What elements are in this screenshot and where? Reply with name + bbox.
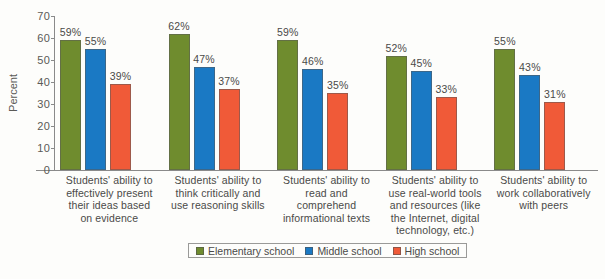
y-axis-tick-label: 40 bbox=[37, 76, 55, 88]
bar-value-label: 46% bbox=[302, 55, 324, 67]
bar-group-bars: 59%55%39% bbox=[55, 16, 164, 170]
bar-group: 55%43%31% bbox=[489, 16, 598, 170]
bar-slot: 59% bbox=[60, 16, 81, 170]
bar[interactable] bbox=[436, 97, 457, 170]
bar-value-label: 55% bbox=[494, 35, 516, 47]
bar-value-label: 45% bbox=[410, 57, 432, 69]
bar-group: 59%55%39% bbox=[55, 16, 164, 170]
bar-slot: 35% bbox=[327, 16, 348, 170]
bar-group-bars: 55%43%31% bbox=[489, 16, 598, 170]
x-axis-category-label: Students' ability toeffectively presentt… bbox=[55, 174, 164, 237]
bar-slot: 55% bbox=[494, 16, 515, 170]
bar[interactable] bbox=[277, 40, 298, 170]
bar[interactable] bbox=[60, 40, 81, 170]
bar[interactable] bbox=[194, 67, 215, 170]
bar-value-label: 33% bbox=[435, 83, 457, 95]
x-axis-category-label: Students' ability toread and comprehendi… bbox=[272, 174, 381, 237]
bar-value-label: 52% bbox=[385, 42, 407, 54]
y-axis-title: Percent bbox=[7, 74, 19, 112]
x-axis-category-label: Students' ability touse real-world tools… bbox=[381, 174, 490, 237]
legend-label: Elementary school bbox=[208, 245, 294, 257]
bar-slot: 46% bbox=[302, 16, 323, 170]
y-axis-tick-label: 50 bbox=[37, 54, 55, 66]
plot-area: Percent 010203040506070 59%55%39%62%47%3… bbox=[55, 16, 598, 170]
y-axis-tick-label: 60 bbox=[37, 32, 55, 44]
bar-value-label: 59% bbox=[277, 26, 299, 38]
bar-value-label: 62% bbox=[168, 20, 190, 32]
bar-value-label: 35% bbox=[327, 79, 349, 91]
chart-figure: Percent 010203040506070 59%55%39%62%47%3… bbox=[0, 0, 605, 279]
y-axis-tick-label: 0 bbox=[44, 164, 55, 176]
bar-value-label: 31% bbox=[544, 88, 566, 100]
bar-group: 59%46%35% bbox=[272, 16, 381, 170]
bar[interactable] bbox=[302, 69, 323, 170]
bar[interactable] bbox=[85, 49, 106, 170]
bar[interactable] bbox=[110, 84, 131, 170]
bar-value-label: 59% bbox=[60, 26, 82, 38]
legend-swatch-icon bbox=[393, 247, 401, 255]
bar-slot: 52% bbox=[386, 16, 407, 170]
bar-slot: 39% bbox=[110, 16, 131, 170]
legend-item[interactable]: High school bbox=[393, 245, 460, 257]
bar[interactable] bbox=[386, 56, 407, 170]
bar-slot: 55% bbox=[85, 16, 106, 170]
bar-value-label: 37% bbox=[218, 75, 240, 87]
y-axis-tick-label: 20 bbox=[37, 120, 55, 132]
legend-label: Middle school bbox=[317, 245, 381, 257]
bar-value-label: 39% bbox=[110, 70, 132, 82]
bar[interactable] bbox=[411, 71, 432, 170]
y-axis-tick-label: 70 bbox=[37, 10, 55, 22]
bar-slot: 62% bbox=[169, 16, 190, 170]
bar-groups: 59%55%39%62%47%37%59%46%35%52%45%33%55%4… bbox=[55, 16, 598, 170]
bar-slot: 47% bbox=[194, 16, 215, 170]
x-axis-labels: Students' ability toeffectively presentt… bbox=[55, 174, 598, 237]
legend-label: High school bbox=[405, 245, 460, 257]
bar-value-label: 55% bbox=[85, 35, 107, 47]
bar-slot: 45% bbox=[411, 16, 432, 170]
bar-group-bars: 59%46%35% bbox=[272, 16, 381, 170]
chart-legend: Elementary schoolMiddle schoolHigh schoo… bbox=[188, 243, 467, 258]
bar-slot: 33% bbox=[436, 16, 457, 170]
y-axis-tick-label: 10 bbox=[37, 142, 55, 154]
bar[interactable] bbox=[219, 89, 240, 170]
bar[interactable] bbox=[519, 75, 540, 170]
legend-swatch-icon bbox=[305, 247, 313, 255]
bar-value-label: 43% bbox=[519, 61, 541, 73]
x-axis-category-label: Students' ability towork collaboratively… bbox=[489, 174, 598, 237]
bar[interactable] bbox=[494, 49, 515, 170]
bar-slot: 59% bbox=[277, 16, 298, 170]
bar[interactable] bbox=[544, 102, 565, 170]
bar-value-label: 47% bbox=[193, 53, 215, 65]
bar-slot: 37% bbox=[219, 16, 240, 170]
x-axis-category-label: Students' ability tothink critically and… bbox=[164, 174, 273, 237]
x-axis-line bbox=[36, 170, 598, 171]
bar[interactable] bbox=[169, 34, 190, 170]
bar-slot: 31% bbox=[544, 16, 565, 170]
bar[interactable] bbox=[327, 93, 348, 170]
bar-group: 62%47%37% bbox=[164, 16, 273, 170]
legend-item[interactable]: Middle school bbox=[305, 245, 381, 257]
bar-slot: 43% bbox=[519, 16, 540, 170]
legend-item[interactable]: Elementary school bbox=[196, 245, 294, 257]
bar-group-bars: 62%47%37% bbox=[164, 16, 273, 170]
bar-group: 52%45%33% bbox=[381, 16, 490, 170]
y-axis-tick-label: 30 bbox=[37, 98, 55, 110]
legend-swatch-icon bbox=[196, 247, 204, 255]
bar-group-bars: 52%45%33% bbox=[381, 16, 490, 170]
